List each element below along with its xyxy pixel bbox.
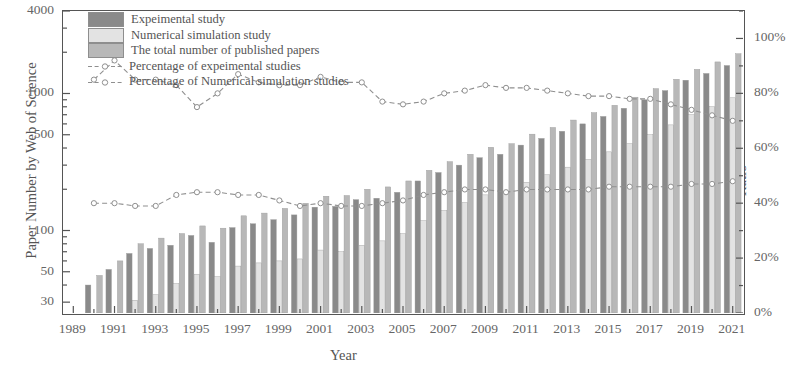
bar <box>591 113 596 313</box>
bar <box>694 69 699 313</box>
legend-line-marker-icon <box>88 60 122 73</box>
bar <box>724 66 729 313</box>
bar <box>447 162 452 313</box>
bar <box>621 108 626 313</box>
bar <box>297 259 302 313</box>
line-marker <box>91 201 96 206</box>
bar <box>400 234 405 313</box>
line-marker <box>709 181 714 186</box>
line-marker <box>648 184 653 189</box>
line-marker <box>215 190 220 195</box>
y-tick-label-right: 100% <box>754 29 786 45</box>
line-marker <box>174 192 179 197</box>
bar <box>415 181 420 313</box>
legend-item[interactable]: The total number of published papers <box>88 43 349 59</box>
bar <box>215 277 220 313</box>
legend-label: Expeimental study <box>131 12 225 28</box>
bar <box>179 234 184 313</box>
bar <box>241 216 246 313</box>
bar <box>209 242 214 313</box>
bar <box>509 144 514 313</box>
line-marker <box>709 113 714 118</box>
bar <box>127 253 132 313</box>
chart-legend: Expeimental studyNumerical simulation st… <box>88 12 349 90</box>
bar <box>683 80 688 313</box>
bar <box>359 245 364 313</box>
legend-swatch <box>88 43 124 58</box>
y-tick-label-right: 0% <box>754 304 772 320</box>
line-marker <box>730 179 735 184</box>
bar <box>85 285 90 313</box>
bar <box>606 152 611 313</box>
line-marker <box>627 184 632 189</box>
bar <box>441 210 446 313</box>
y-axis-left-title: Paper Number by Web of Science <box>23 36 40 286</box>
bar <box>633 97 638 313</box>
bar <box>730 98 735 313</box>
bar <box>571 120 576 313</box>
bar <box>627 144 632 313</box>
line-marker <box>442 190 447 195</box>
bar <box>477 158 482 313</box>
bar <box>689 115 694 313</box>
line-marker <box>524 85 529 90</box>
line-marker <box>277 198 282 203</box>
legend-item[interactable]: Numerical simulation study <box>88 28 349 44</box>
legend-label: Percentage of expeimental studies <box>129 59 301 75</box>
bar <box>394 192 399 313</box>
bar <box>709 107 714 313</box>
bar <box>173 284 178 313</box>
line-marker <box>318 201 323 206</box>
bar <box>704 73 709 313</box>
line-marker <box>153 203 158 208</box>
legend-label: The total number of published papers <box>131 43 320 59</box>
bar <box>550 127 555 313</box>
bar <box>168 245 173 313</box>
legend-item[interactable]: Percentage of expeimental studies <box>88 59 349 75</box>
y-tick-label-right: 20% <box>754 249 779 265</box>
bar <box>539 138 544 313</box>
bar <box>524 182 529 313</box>
x-tick-label: 2021 <box>706 321 758 337</box>
bar <box>318 250 323 313</box>
line-marker <box>648 96 653 101</box>
line-marker <box>606 184 611 189</box>
line-marker <box>586 94 591 99</box>
y-tick-label-right: 80% <box>754 84 779 100</box>
bar <box>230 228 235 313</box>
bar <box>647 135 652 313</box>
legend-label: Numerical simulation study <box>131 28 271 44</box>
y-tick-label: 50 <box>0 263 54 279</box>
bar <box>138 244 143 313</box>
bar <box>333 206 338 313</box>
y-tick-label: 4000 <box>0 2 54 18</box>
bar <box>256 263 261 313</box>
legend-item[interactable]: Expeimental study <box>88 12 349 28</box>
y-tick-label: 1000 <box>0 84 54 100</box>
bar <box>668 125 673 313</box>
line-marker <box>400 102 405 107</box>
line-marker <box>668 184 673 189</box>
line-marker <box>380 99 385 104</box>
bar <box>106 269 111 313</box>
bar <box>159 238 164 313</box>
bar <box>612 105 617 313</box>
y-tick-label: 500 <box>0 126 54 142</box>
line-marker <box>112 201 117 206</box>
line-marker <box>565 187 570 192</box>
bar <box>406 181 411 313</box>
bar <box>188 235 193 313</box>
bar <box>277 261 282 313</box>
bar <box>580 124 585 313</box>
legend-item[interactable]: Percentage of Numerical simulation studi… <box>88 74 349 90</box>
bar <box>262 213 267 313</box>
bar <box>365 189 370 313</box>
line-marker <box>442 91 447 96</box>
line-marker <box>297 203 302 208</box>
y-tick-label-right: 40% <box>754 194 779 210</box>
bar <box>344 196 349 313</box>
y-tick-label-right: 60% <box>754 139 779 155</box>
legend-line-marker-icon <box>88 76 122 89</box>
bar <box>462 203 467 313</box>
bar <box>385 187 390 313</box>
